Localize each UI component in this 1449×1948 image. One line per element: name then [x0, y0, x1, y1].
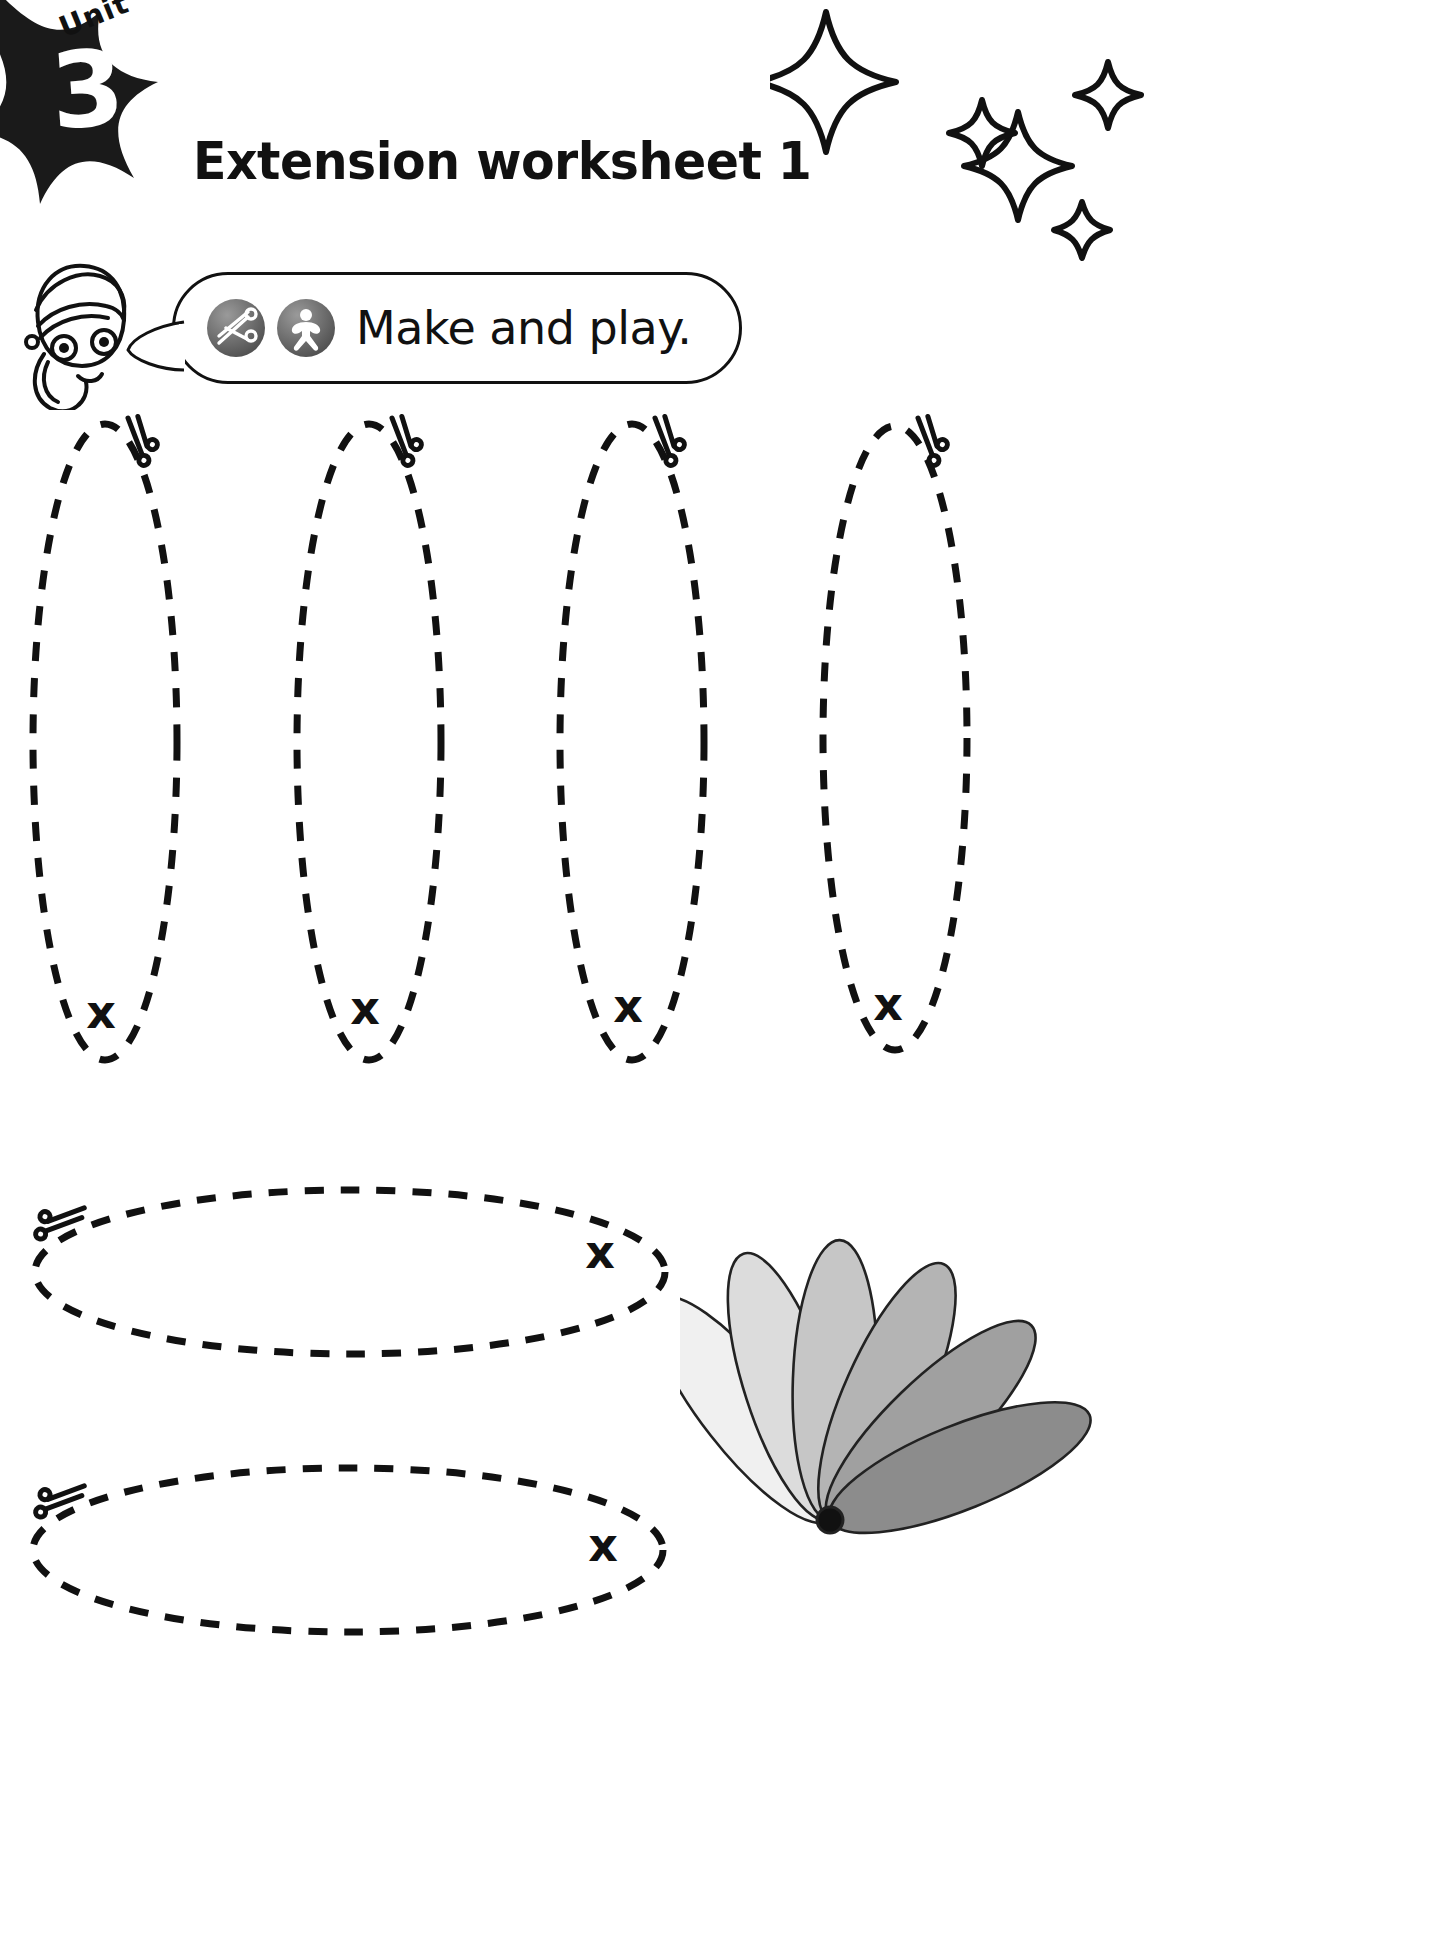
cut-oval-vertical-1 — [33, 424, 177, 1060]
worksheet-page: Unit 3 Extension worksheet 1 — [0, 0, 1449, 1948]
cut-x-mark: x — [588, 1518, 618, 1572]
cut-x-mark: x — [585, 1225, 615, 1279]
paper-fan-illustration — [680, 1175, 1120, 1575]
cut-oval-vertical-3 — [560, 424, 704, 1060]
scissors-cut-marker-1 — [112, 413, 166, 468]
cut-x-mark: x — [613, 979, 643, 1033]
scissors-cut-marker-3 — [639, 413, 693, 468]
cut-oval-horizontal-2 — [33, 1468, 663, 1632]
cut-x-mark: x — [86, 985, 116, 1039]
scissors-cut-marker-4 — [902, 413, 956, 468]
cutout-shapes: x x x x x x — [0, 0, 1449, 1948]
cut-oval-horizontal-1 — [35, 1190, 665, 1354]
cut-x-mark: x — [873, 977, 903, 1031]
scissors-cut-marker-2 — [376, 413, 430, 468]
cut-oval-vertical-2 — [297, 424, 441, 1060]
cut-x-mark: x — [350, 981, 380, 1035]
cut-oval-vertical-4 — [823, 426, 967, 1050]
